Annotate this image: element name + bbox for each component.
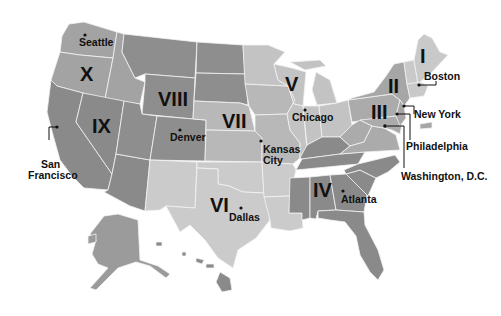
city-label-chicago: Chicago [292, 111, 333, 123]
city-label-philadelphia: Philadelphia [406, 140, 468, 152]
city-label-seattle: Seattle [79, 36, 114, 48]
state-alaska[interactable] [88, 214, 170, 290]
region-label-ii: II [388, 75, 399, 97]
city-label-dallas: Dallas [229, 211, 260, 223]
region-label-iii: III [371, 101, 388, 123]
territory-puerto-rico [420, 122, 432, 129]
state-florida [318, 210, 384, 280]
state-new-mexico [145, 160, 197, 211]
region-label-ix: IX [92, 115, 112, 137]
city-label-francisco: Francisco [28, 169, 78, 181]
state-massachusetts-ri-ct [407, 82, 428, 98]
region-label-iv: IV [313, 179, 333, 201]
city-label-city: City [263, 154, 283, 166]
city-dot-dallas [239, 206, 242, 209]
city-label-washington-dc: Washington, D.C. [401, 170, 488, 182]
city-label-atlanta: Atlanta [341, 193, 377, 205]
city-label-new-york: New York [414, 108, 461, 120]
region-label-vi: VI [210, 194, 229, 216]
region-i[interactable] [404, 34, 448, 98]
state-montana [122, 34, 197, 78]
region-iv[interactable] [289, 137, 400, 280]
us-federal-regions-map: X IX VIII VII VI V IV III II I Seattle S… [0, 0, 501, 316]
region-label-vii: VII [222, 110, 246, 132]
state-south-dakota [194, 73, 248, 105]
state-north-dakota [196, 42, 245, 74]
city-label-denver: Denver [170, 131, 206, 143]
region-label-viii: VIII [158, 88, 188, 110]
region-label-v: V [285, 73, 299, 95]
region-label-i: I [420, 45, 426, 67]
city-dot-washington-dc [383, 124, 387, 128]
region-label-x: X [80, 63, 94, 85]
city-label-boston: Boston [424, 70, 460, 82]
state-kansas [205, 130, 262, 162]
